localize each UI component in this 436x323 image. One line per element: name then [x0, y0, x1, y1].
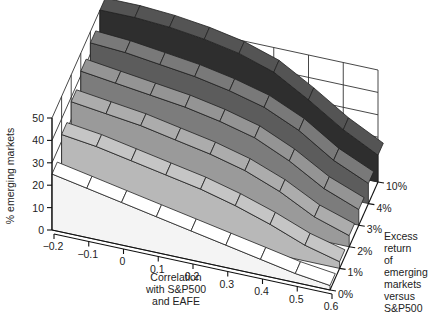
z-tick-label: 10: [32, 202, 44, 214]
surface-ribbons: [52, 0, 383, 290]
y-tick-label: 0%: [338, 288, 353, 300]
y-axis-title-line: Excess: [384, 230, 418, 242]
y-tick: [359, 225, 365, 226]
y-tick: [349, 247, 355, 248]
x-tick-label: 0.3: [219, 278, 234, 290]
x-axis-title-line: with S&P500: [145, 283, 206, 295]
z-tick-label: 30: [32, 157, 44, 169]
y-axis-title-line: return: [384, 242, 412, 254]
x-tick-label: −0.2: [43, 240, 64, 252]
x-tick-label: 0.6: [324, 300, 339, 312]
x-axis-title: Correlationwith S&P500and EAFE: [145, 271, 206, 307]
x-axis-title-line: Correlation: [150, 271, 202, 283]
z-tick-label: 20: [32, 179, 44, 191]
y-tick-label: 1%: [348, 266, 363, 278]
y-axis-title-line: S&P500: [384, 302, 423, 314]
z-tick-label: 50: [32, 112, 44, 124]
y-tick: [368, 204, 374, 205]
y-tick: [378, 182, 384, 183]
y-tick-label: 4%: [376, 202, 391, 214]
z-tick-label: 0: [38, 224, 44, 236]
z-tick-label: 40: [32, 134, 44, 146]
y-tick-label: 2%: [357, 245, 372, 257]
y-axis-title-line: markets: [384, 278, 421, 290]
x-tick-label: 0.4: [254, 285, 269, 297]
x-tick-label: −0.1: [77, 248, 98, 260]
x-axis-title-line: and EAFE: [152, 295, 200, 307]
x-tick-label: 0.5: [289, 293, 304, 305]
y-axis-title-line: versus: [384, 290, 415, 302]
y-tick-label: 3%: [367, 223, 382, 235]
y-axis-title-line: of: [384, 254, 393, 266]
surface-chart: 01020304050 −0.2−0.100.10.20.30.40.50.6 …: [0, 0, 436, 323]
z-axis-title: % emerging markets: [4, 128, 16, 224]
y-tick-label: 10%: [386, 180, 407, 192]
x-tick-label: 0: [120, 255, 126, 267]
z-axis-ticks: 01020304050: [32, 112, 52, 236]
y-axis-title-line: emerging: [384, 266, 428, 278]
y-axis-title: ExcessreturnofemergingmarketsversusS&P50…: [384, 230, 428, 314]
y-tick: [340, 268, 346, 269]
y-tick: [330, 290, 336, 291]
